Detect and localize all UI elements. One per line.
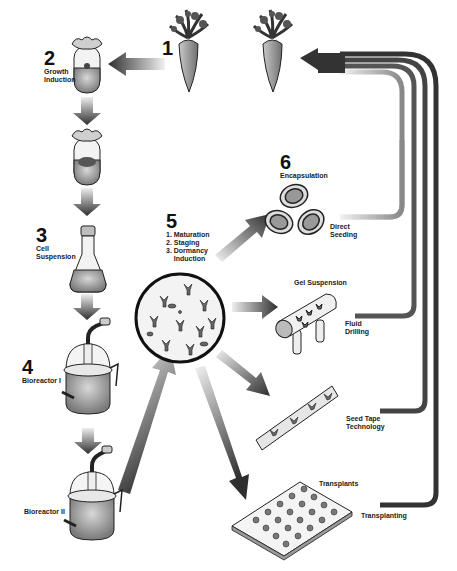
carrot-icon-2 (254, 10, 292, 92)
substep-staging: 2. Staging (166, 239, 210, 247)
transplants-label: Transplants (319, 480, 358, 488)
step-4-label: Bioreactor I (22, 377, 61, 385)
step-5-number: 5 (166, 211, 177, 231)
test-tube-icon-1 (72, 37, 102, 93)
substep-dormancy: 3. Dormancy (166, 247, 210, 255)
substep-maturation: 1. Maturation (166, 231, 210, 239)
arrow-1-to-2 (108, 52, 165, 76)
gel-suspension-label: Gel Suspension (294, 279, 347, 287)
step-5-substeps: 1. Maturation 2. Staging 3. Dormancy Ind… (166, 231, 210, 263)
test-tube-icon-2 (72, 129, 102, 185)
seed-tape-icon (256, 386, 338, 450)
capsule-icon (262, 181, 329, 240)
arrow-3-down (73, 294, 101, 320)
arrow-5-to-tape (216, 350, 270, 396)
bioreactor-2-label: Bioreactor II (24, 508, 65, 516)
gel-cylinder-icon (273, 294, 337, 354)
arrow-5-to-gel (232, 295, 278, 319)
step-2-number: 2 (44, 48, 55, 68)
step-4-number: 4 (22, 357, 33, 377)
arrow-2-down (73, 97, 101, 125)
substep-induction: Induction (166, 255, 210, 263)
step-3-label: Cell Suspension (36, 245, 76, 261)
bioreactor-icon-1 (62, 318, 118, 414)
arrow-5-to-transplants (195, 366, 249, 500)
transplanting-label: Transplanting (361, 512, 407, 520)
arrow-bioreactor-to-5 (118, 347, 176, 494)
arrow-5-to-6 (215, 214, 270, 262)
step-2-label: Growth Induction (44, 68, 76, 84)
seed-tape-label: Seed Tape Technology (346, 415, 385, 431)
arrow-tube-down (73, 188, 101, 216)
step-1-number: 1 (162, 38, 173, 58)
return-arrow-head (300, 48, 345, 73)
fluid-drilling-label: Fluid Drilling (345, 320, 369, 336)
direct-seeding-label: Direct Seeding (330, 223, 357, 239)
embryo-culture-icon (136, 274, 224, 362)
step-6-label: Encapsulation (280, 172, 328, 180)
carrot-icon-1 (170, 10, 208, 92)
diagram-canvas (0, 0, 457, 571)
step-3-number: 3 (36, 225, 47, 245)
bioreactor-icon-2 (64, 446, 122, 540)
arrow-4-down (74, 428, 102, 454)
step-6-number: 6 (280, 152, 291, 172)
transplant-tray-icon (232, 482, 352, 560)
return-lines (340, 54, 436, 505)
